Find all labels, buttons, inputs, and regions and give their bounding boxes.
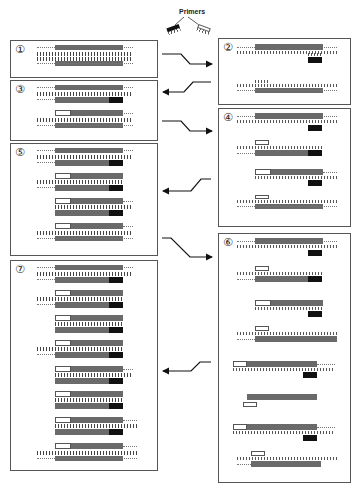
step-4-box: ④	[218, 108, 351, 227]
step-1-number: ①	[15, 44, 25, 55]
arrow-2-to-3	[163, 82, 211, 92]
arrow-1-to-2	[162, 54, 212, 64]
arrow-4-to-5	[163, 179, 211, 191]
step-2-number: ②	[223, 42, 233, 53]
step-5-number: ⑤	[15, 147, 25, 158]
step-3-box: ③	[10, 80, 158, 141]
arrow-3-to-4	[162, 121, 212, 131]
step-5-box: ⑤	[10, 143, 158, 256]
step-3-number: ③	[15, 84, 25, 95]
step-7-box: ⑦	[10, 260, 158, 471]
step-4-number: ④	[223, 112, 233, 123]
arrow-5-to-6	[162, 238, 212, 257]
arrow-6-to-7	[163, 362, 211, 371]
step-2-box: ②	[218, 38, 351, 105]
step-1-box: ①	[10, 40, 158, 78]
step-6-number: ⑥	[223, 237, 233, 248]
step-6-box: ⑥	[218, 233, 351, 483]
step-7-number: ⑦	[15, 264, 25, 275]
